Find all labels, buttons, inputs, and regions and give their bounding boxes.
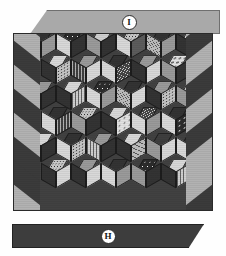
figure-canvas: I H xyxy=(0,0,226,256)
quilt-block xyxy=(41,158,71,192)
quilt-block xyxy=(131,158,161,192)
label-badge-i: I xyxy=(122,15,137,30)
label-badge-h: H xyxy=(101,229,116,244)
quilt-block xyxy=(161,158,186,192)
quilt-field xyxy=(40,34,186,210)
chevron-border-left xyxy=(14,33,40,211)
label-bar-bottom: H xyxy=(12,224,204,248)
label-bar-top: I xyxy=(30,10,220,34)
quilt-block xyxy=(71,158,101,192)
quilt-panel xyxy=(13,33,213,211)
quilt-block xyxy=(101,158,131,192)
chevron-border-right xyxy=(186,33,212,211)
